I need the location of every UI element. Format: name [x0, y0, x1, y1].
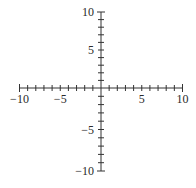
y-axis-tick-labels: 105−5−10: [75, 5, 94, 178]
x-tick-label: −5: [54, 92, 67, 106]
y-tick-label: −5: [81, 123, 94, 137]
x-tick-label: 5: [139, 92, 145, 106]
y-tick-label: 5: [88, 43, 94, 57]
y-tick-label: −10: [75, 164, 94, 178]
y-tick-label: 10: [82, 5, 94, 19]
x-axis-tick-labels: −10−5510: [10, 92, 188, 106]
x-tick-label: 10: [177, 92, 189, 106]
x-tick-label: −10: [10, 92, 29, 106]
coordinate-plane: −10−5510 105−5−10: [0, 0, 196, 188]
